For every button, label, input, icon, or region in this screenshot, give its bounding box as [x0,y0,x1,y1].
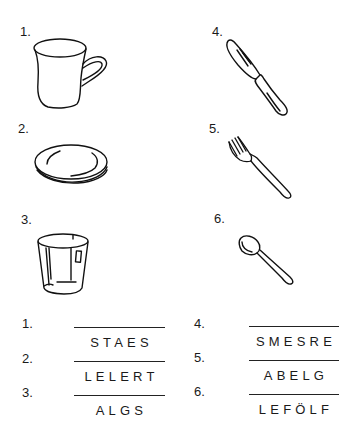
spoon-icon [238,234,298,290]
picture-number-4: 4. [212,25,223,38]
scrambled-word-4: SMESRE [249,335,343,348]
scrambled-word-1: STAES [74,336,169,349]
glass-icon [37,233,91,295]
picture-number-5: 5. [209,122,220,135]
picture-number-1: 1. [20,25,31,38]
picture-number-3: 3. [21,213,32,226]
answer-line-5[interactable] [249,360,339,361]
scrambled-word-2: LELERT [74,370,169,383]
word-number-4: 4. [194,317,205,330]
word-number-3: 3. [22,386,33,399]
scrambled-word-6: LEFÖLF [249,403,343,416]
picture-number-6: 6. [214,212,225,225]
word-number-6: 6. [194,385,205,398]
plate-icon [34,143,110,185]
cup-icon [33,38,113,110]
word-number-1: 1. [22,317,33,330]
word-number-2: 2. [22,352,33,365]
answer-line-4[interactable] [249,326,339,327]
word-number-5: 5. [194,351,205,364]
picture-number-2: 2. [18,122,29,135]
answer-line-1[interactable] [74,327,165,328]
answer-line-6[interactable] [249,394,339,395]
scrambled-word-5: ABELG [249,369,343,382]
answer-line-2[interactable] [74,361,165,362]
scrambled-word-3: ALGS [74,404,169,417]
knife-icon [224,37,296,117]
answer-line-3[interactable] [74,395,165,396]
fork-icon [228,136,298,202]
